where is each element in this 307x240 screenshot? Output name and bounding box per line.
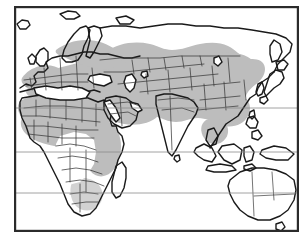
aral-sea <box>141 71 148 78</box>
distribution-map-figure <box>0 0 307 240</box>
map-canvas <box>0 0 307 240</box>
